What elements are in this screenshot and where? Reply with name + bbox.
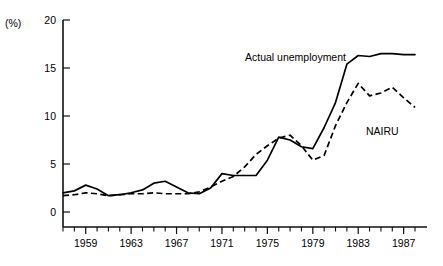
x-axis-tick-label: 1963 bbox=[119, 237, 143, 249]
actual-unemployment-label: Actual unemployment bbox=[245, 51, 346, 63]
y-axis-tick-label: 0 bbox=[50, 206, 56, 218]
chart-figure: 05101520 1959196319671971197519791983198… bbox=[0, 0, 443, 266]
series-line-actual-unemployment bbox=[63, 54, 415, 196]
x-axis-ticks bbox=[63, 227, 415, 234]
x-axis-tick-labels: 19591963196719711975197919831987 bbox=[74, 237, 415, 249]
y-axis-tick-labels: 05101520 bbox=[44, 14, 56, 218]
unemployment-nairu-line-chart: 05101520 1959196319671971197519791983198… bbox=[0, 0, 443, 266]
x-axis-tick-label: 1971 bbox=[210, 237, 234, 249]
y-axis-tick-label: 15 bbox=[44, 62, 56, 74]
series-line-nairu bbox=[63, 83, 415, 195]
y-axis-tick-label: 20 bbox=[44, 14, 56, 26]
y-axis-ticks bbox=[63, 20, 70, 212]
x-axis-tick-label: 1967 bbox=[165, 237, 189, 249]
y-axis-unit-label: (%) bbox=[5, 17, 21, 29]
x-axis-tick-label: 1979 bbox=[301, 237, 325, 249]
y-axis-tick-label: 5 bbox=[50, 158, 56, 170]
x-axis-tick-label: 1983 bbox=[347, 237, 371, 249]
x-axis-tick-label: 1959 bbox=[74, 237, 98, 249]
x-axis-tick-label: 1987 bbox=[392, 237, 416, 249]
chart-series-group bbox=[63, 54, 415, 196]
nairu-label: NAIRU bbox=[366, 125, 399, 137]
x-axis-tick-label: 1975 bbox=[256, 237, 280, 249]
y-axis-tick-label: 10 bbox=[44, 110, 56, 122]
